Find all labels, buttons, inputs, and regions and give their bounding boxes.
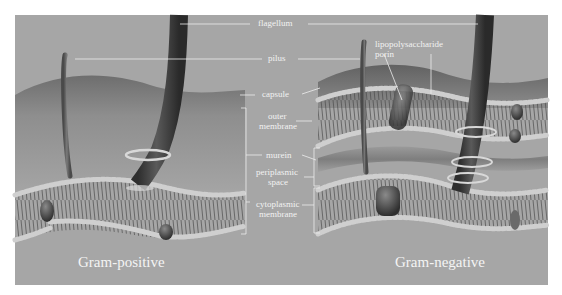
- label-cytoplasmic-2: membrane: [259, 210, 297, 219]
- gn-membrane-protein-large: [376, 186, 400, 216]
- label-porin: porin: [375, 50, 394, 59]
- gp-membrane-protein-1: [40, 200, 54, 222]
- gn-cyto-protein-small: [510, 210, 520, 230]
- gram-positive-title: Gram-positive: [78, 255, 165, 270]
- bacterial-cell-wall-diagram: flagellum pilus capsule outer membrane m…: [0, 0, 562, 295]
- label-lipopolysaccharide: lipopolysaccharide: [375, 40, 443, 49]
- label-flagellum: flagellum: [258, 19, 293, 28]
- gn-outer-protein: [511, 104, 523, 120]
- label-pilus: pilus: [268, 54, 286, 63]
- label-murein: murein: [266, 151, 292, 160]
- gram-positive-wall: [15, 76, 245, 190]
- label-outer-membrane-2: membrane: [259, 122, 297, 131]
- label-outer-membrane-1: outer: [268, 112, 287, 121]
- label-periplasmic-2: space: [268, 178, 288, 187]
- label-cytoplasmic-1: cytoplasmic: [256, 200, 300, 209]
- gram-negative-title: Gram-negative: [395, 255, 485, 270]
- diagram-canvas: [0, 0, 562, 295]
- gp-membrane-protein-2: [159, 224, 173, 240]
- label-periplasmic-1: periplasmic: [256, 168, 298, 177]
- label-capsule: capsule: [262, 90, 289, 99]
